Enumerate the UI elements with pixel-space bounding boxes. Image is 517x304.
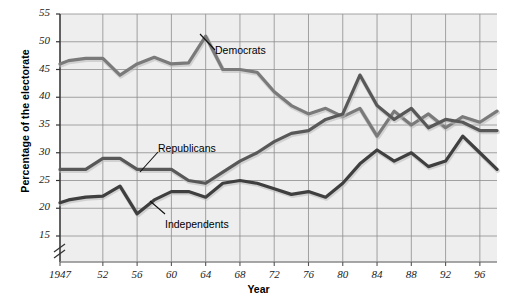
x-tick-label: 1947 bbox=[40, 268, 80, 280]
y-tick-label: 25 bbox=[20, 173, 50, 185]
y-tick-label: 45 bbox=[20, 62, 50, 74]
x-tick-label: 72 bbox=[262, 268, 286, 280]
y-tick-label: 30 bbox=[20, 145, 50, 157]
chart-container: Percentage of the electorate Year 152025… bbox=[0, 0, 517, 304]
y-tick-label: 15 bbox=[20, 228, 50, 240]
y-tick-label: 35 bbox=[20, 117, 50, 129]
x-tick-label: 64 bbox=[194, 268, 218, 280]
x-tick-label: 76 bbox=[296, 268, 320, 280]
y-tick-label: 55 bbox=[20, 6, 50, 18]
series-label-independents: Independents bbox=[165, 218, 229, 230]
x-tick-label: 68 bbox=[228, 268, 252, 280]
x-tick-label: 80 bbox=[331, 268, 355, 280]
series-label-republicans: Republicans bbox=[158, 142, 216, 154]
x-axis-title: Year bbox=[0, 283, 517, 295]
x-tick-label: 60 bbox=[159, 268, 183, 280]
x-tick-label: 56 bbox=[125, 268, 149, 280]
y-tick-label: 50 bbox=[20, 34, 50, 46]
x-tick-label: 88 bbox=[399, 268, 423, 280]
x-tick-label: 92 bbox=[434, 268, 458, 280]
series-label-democrats: Democrats bbox=[215, 44, 266, 56]
x-tick-label: 52 bbox=[91, 268, 115, 280]
y-tick-label: 20 bbox=[20, 200, 50, 212]
x-tick-label: 84 bbox=[365, 268, 389, 280]
y-tick-label: 40 bbox=[20, 89, 50, 101]
x-tick-label: 96 bbox=[468, 268, 492, 280]
